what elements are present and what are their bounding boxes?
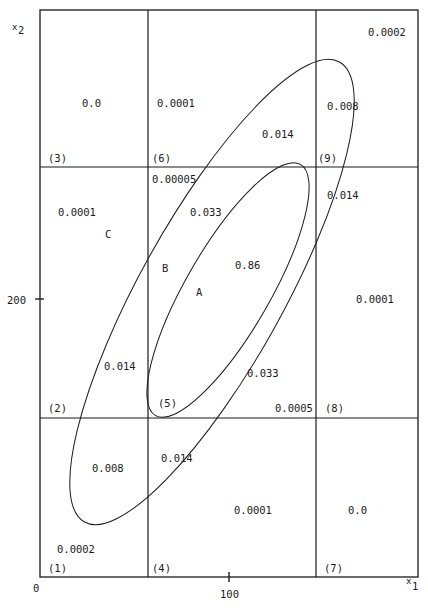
cell-7-id: (7) [324, 562, 343, 574]
cell-8-inner-value: 0.014 [327, 189, 359, 201]
cell-4-outer-value: 0.0001 [234, 504, 272, 516]
y-tick-label: 200 [7, 294, 26, 306]
y-axis-subscript: 2 [18, 24, 24, 36]
cell-2-region-c: C [105, 228, 111, 240]
origin-label: 0 [33, 582, 39, 594]
cell-2-id: (2) [48, 402, 67, 414]
cell-6-outer-value: 0.0001 [157, 97, 195, 109]
cell-5-region-b: B [162, 262, 168, 274]
cell-5-mid-bot-value: 0.033 [247, 367, 279, 379]
cell-1-id: (1) [48, 562, 67, 574]
cell-4-id: (4) [152, 562, 171, 574]
cell-6-inner-value: 0.014 [262, 128, 294, 140]
cell-3-id: (3) [48, 152, 67, 164]
diagram-canvas: x 2 x 1 0 100 200 0.0 (3) 0.0001 0.014 (… [0, 0, 428, 610]
cell-1-inner-value: 0.008 [92, 462, 124, 474]
x-axis-subscript: 1 [412, 580, 418, 592]
cell-5-id: (5) [158, 397, 177, 409]
inner-ellipse [119, 143, 337, 436]
cell-5-region-a: A [196, 286, 203, 298]
cell-7-value: 0.0 [348, 504, 367, 516]
cell-6-id: (6) [152, 152, 171, 164]
cell-5-outer-top-value: 0.00005 [152, 173, 196, 185]
cell-2-outer-value: 0.0001 [58, 206, 96, 218]
cell-9-outer-value: 0.0002 [368, 26, 406, 38]
cell-9-inner-value: 0.008 [327, 100, 359, 112]
x-tick-label: 100 [220, 588, 239, 600]
cell-5-outer-bot-value: 0.0005 [275, 402, 313, 414]
cell-8-id: (8) [325, 402, 344, 414]
cell-5-mid-top-value: 0.033 [190, 206, 222, 218]
cell-4-inner-value: 0.014 [161, 452, 193, 464]
cell-1-outer-value: 0.0002 [57, 543, 95, 555]
cell-9-id: (9) [318, 152, 337, 164]
cell-3-value: 0.0 [82, 97, 101, 109]
cell-2-inner-value: 0.014 [104, 360, 136, 372]
cell-8-outer-value: 0.0001 [356, 293, 394, 305]
cell-5-inner-value: 0.86 [235, 259, 260, 271]
